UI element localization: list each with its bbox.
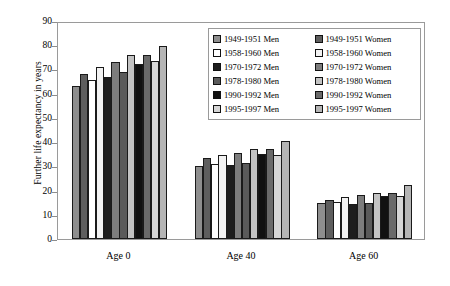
legend-swatch-icon [213, 35, 221, 43]
legend-swatch-icon [213, 105, 221, 113]
bar [127, 55, 135, 239]
legend-label: 1958-1960 Men [224, 49, 279, 58]
legend-label: 1995-1997 Women [326, 105, 392, 114]
legend: 1949-1951 Men1958-1960 Men1970-1972 Men1… [208, 28, 421, 120]
bar [88, 80, 96, 239]
legend-swatch-icon [213, 63, 221, 71]
bar [273, 155, 281, 239]
bar [159, 46, 167, 239]
x-axis-group-label: Age 60 [302, 250, 425, 261]
bar [119, 72, 127, 239]
legend-item: 1995-1997 Men [213, 102, 315, 116]
legend-label: 1958-1960 Women [326, 49, 392, 58]
y-axis-tick-mark [52, 240, 57, 241]
bar [151, 61, 159, 239]
bar [365, 203, 373, 239]
bar [404, 185, 412, 239]
y-axis-tick-label: 20 [26, 187, 52, 196]
bar [135, 64, 143, 239]
legend-label: 1978-1980 Women [326, 77, 392, 86]
y-axis-tick-label: 70 [26, 65, 52, 74]
legend-swatch-icon [315, 49, 323, 57]
legend-item: 1958-1960 Men [213, 46, 315, 60]
bar [96, 67, 104, 239]
y-axis-tick-label: 30 [26, 162, 52, 171]
legend-item: 1958-1960 Women [315, 46, 417, 60]
bar [143, 55, 151, 239]
bar [349, 204, 357, 239]
bar [203, 158, 211, 239]
legend-swatch-icon [213, 77, 221, 85]
legend-label: 1990-1992 Men [224, 91, 279, 100]
legend-column-women: 1949-1951 Women1958-1960 Women1970-1972 … [315, 32, 417, 116]
bar [325, 200, 333, 239]
legend-label: 1949-1951 Women [326, 35, 392, 44]
legend-item: 1990-1992 Women [315, 88, 417, 102]
legend-swatch-icon [213, 49, 221, 57]
legend-label: 1970-1972 Men [224, 63, 279, 72]
y-axis-tick-label: 50 [26, 114, 52, 123]
legend-label: 1995-1997 Men [224, 105, 279, 114]
bar [258, 154, 266, 239]
legend-item: 1949-1951 Women [315, 32, 417, 46]
bar [226, 165, 234, 239]
bar [195, 166, 203, 239]
bar [218, 155, 226, 239]
legend-swatch-icon [315, 77, 323, 85]
bar [281, 141, 289, 239]
x-axis-group-label: Age 0 [57, 250, 180, 261]
y-axis-tick-label: 90 [26, 17, 52, 26]
legend-item: 1978-1980 Women [315, 74, 417, 88]
legend-item: 1970-1972 Women [315, 60, 417, 74]
legend-item: 1995-1997 Women [315, 102, 417, 116]
legend-label: 1978-1980 Men [224, 77, 279, 86]
legend-item: 1970-1972 Men [213, 60, 315, 74]
bar [72, 86, 80, 239]
bar [380, 196, 388, 239]
legend-item: 1949-1951 Men [213, 32, 315, 46]
y-axis-tick-label: 0 [26, 235, 52, 244]
legend-swatch-icon [315, 105, 323, 113]
legend-item: 1978-1980 Men [213, 74, 315, 88]
y-axis-tick-label: 80 [26, 41, 52, 50]
bar [317, 203, 325, 239]
legend-swatch-icon [315, 91, 323, 99]
bar [357, 195, 365, 239]
legend-swatch-icon [315, 63, 323, 71]
bar [333, 202, 341, 239]
bar [373, 193, 381, 240]
y-axis-tick-label: 40 [26, 138, 52, 147]
y-axis-tick-label: 60 [26, 90, 52, 99]
bar [111, 62, 119, 239]
legend-swatch-icon [213, 91, 221, 99]
bar [250, 149, 258, 239]
legend-label: 1949-1951 Men [224, 35, 279, 44]
legend-swatch-icon [315, 35, 323, 43]
bar [242, 163, 250, 239]
bar [234, 153, 242, 239]
bar [80, 74, 88, 239]
bar [388, 193, 396, 239]
legend-label: 1990-1992 Women [326, 91, 392, 100]
legend-column-men: 1949-1951 Men1958-1960 Men1970-1972 Men1… [213, 32, 315, 116]
legend-label: 1970-1972 Women [326, 63, 392, 72]
bar [266, 149, 274, 239]
bar [211, 164, 219, 239]
bar-chart: Further life expectancy in years 0102030… [0, 0, 450, 286]
x-axis-group-label: Age 40 [180, 250, 303, 261]
bar [341, 197, 349, 239]
y-axis-tick-label: 10 [26, 211, 52, 220]
bar [104, 77, 112, 239]
legend-item: 1990-1992 Men [213, 88, 315, 102]
bar [396, 196, 404, 239]
